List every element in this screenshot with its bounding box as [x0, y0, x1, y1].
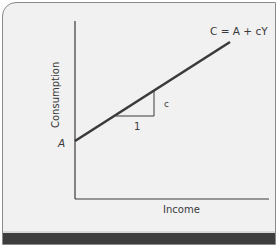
slope-rise-label: c [164, 99, 169, 109]
consumption-diagram: C = A + cY c 1 A Income Consumption [3, 3, 276, 245]
intercept-label: A [57, 137, 65, 149]
slope-run-label: 1 [134, 121, 140, 132]
equation-label: C = A + cY [210, 25, 268, 37]
x-axis-label: Income [163, 204, 200, 215]
consumption-line [75, 42, 230, 141]
figure-panel: C = A + cY c 1 A Income Consumption [2, 2, 276, 245]
y-axis-label: Consumption [50, 62, 61, 128]
bottom-bar [3, 231, 275, 244]
